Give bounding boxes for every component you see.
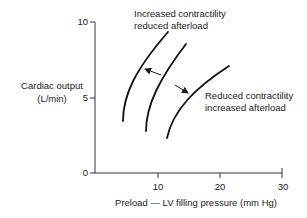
- x-tick-10: 10: [153, 181, 164, 192]
- annotation-top-line1: Increased contractility: [134, 8, 226, 19]
- annotation-right-line2: increased afterload: [205, 102, 286, 113]
- annotation-right-line1: Reduced contractility: [205, 90, 293, 101]
- y-tick-0: 0: [83, 167, 88, 178]
- curve-increased-contractility: [123, 32, 168, 121]
- y-tick-10: 10: [77, 16, 88, 27]
- arrow-right-icon: [175, 85, 188, 93]
- y-tick-5: 5: [83, 92, 88, 103]
- y-axis-title: Cardiac output: [21, 80, 83, 91]
- y-axis: [90, 22, 95, 173]
- arrow-left-icon: [145, 69, 161, 75]
- x-tick-20: 20: [215, 181, 226, 192]
- cardiac-function-chart: 10 5 0 10 20 30 Cardiac output (L/min) P…: [0, 0, 307, 218]
- annotation-top-line2: reduced afterload: [134, 20, 208, 31]
- x-axis: [95, 168, 282, 178]
- x-tick-30: 30: [278, 181, 289, 192]
- y-axis-units: (L/min): [37, 93, 67, 104]
- x-axis-title: Preload — LV filling pressure (mm Hg): [115, 197, 277, 208]
